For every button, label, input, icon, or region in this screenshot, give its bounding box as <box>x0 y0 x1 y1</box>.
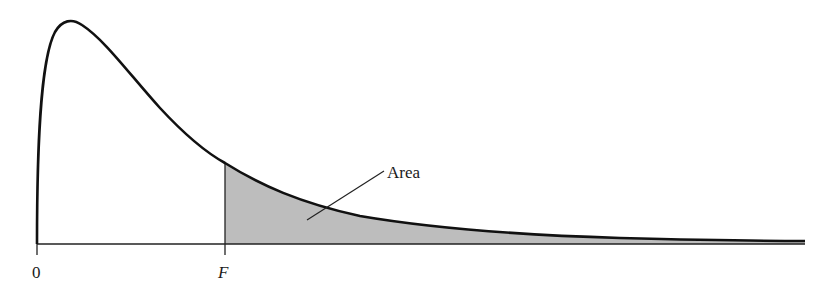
f-distribution-diagram: Area 0 F <box>0 0 831 295</box>
density-curve <box>37 21 805 244</box>
area-label: Area <box>387 163 420 182</box>
origin-label: 0 <box>32 263 41 282</box>
critical-value-label: F <box>217 263 229 282</box>
